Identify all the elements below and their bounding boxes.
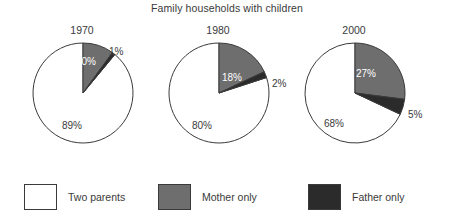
pie-slices-1980 xyxy=(169,43,269,143)
legend-item-father-only: Father only xyxy=(308,184,405,210)
pie-year-label-1980: 1980 xyxy=(150,24,286,36)
legend-swatch-two-parents-icon xyxy=(24,184,57,210)
pie-slices-2000 xyxy=(305,43,405,143)
chart-legend: Two parents Mother only Father only xyxy=(0,184,454,220)
legend-swatch-father-only-icon xyxy=(308,184,341,210)
pie-year-label-2000: 2000 xyxy=(286,24,422,36)
slice-label-mother-only-2000: 27% xyxy=(356,68,376,79)
pie-panel-1980: 1980 80% 18% 2% xyxy=(150,24,286,156)
legend-label-two-parents: Two parents xyxy=(68,191,125,203)
slice-label-father-only-1970: 1% xyxy=(109,46,123,57)
legend-label-father-only: Father only xyxy=(352,191,405,203)
slice-label-father-only-1980: 2% xyxy=(272,78,286,89)
slice-label-two-parents-1970: 89% xyxy=(62,120,82,131)
slice-label-mother-only-1970: 10% xyxy=(76,56,96,67)
pie-chart-1980 xyxy=(168,42,270,144)
pie-year-label-1970: 1970 xyxy=(14,24,150,36)
legend-item-mother-only: Mother only xyxy=(158,184,257,210)
slice-label-father-only-2000: 5% xyxy=(408,109,422,120)
pie-chart-2000 xyxy=(304,42,406,144)
pie-panel-1970: 1970 89% 10% 1% xyxy=(14,24,150,156)
pie-panel-2000: 2000 68% 27% 5% xyxy=(286,24,422,156)
slice-label-mother-only-1980: 18% xyxy=(222,72,242,83)
legend-label-mother-only: Mother only xyxy=(202,191,257,203)
legend-swatch-mother-only-icon xyxy=(158,184,191,210)
slice-label-two-parents-2000: 68% xyxy=(324,118,344,129)
chart-page: Family households with children 1970 89%… xyxy=(0,0,454,223)
legend-item-two-parents: Two parents xyxy=(24,184,125,210)
page-title: Family households with children xyxy=(0,2,454,14)
slice-label-two-parents-1980: 80% xyxy=(192,120,212,131)
